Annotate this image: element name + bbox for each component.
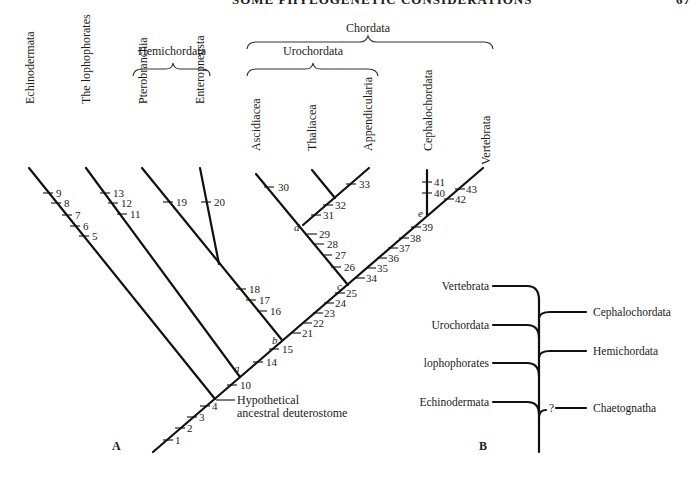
char-26: 26 [344, 261, 356, 273]
taxon-thaliacea: Thaliacea [305, 104, 319, 151]
char-32: 32 [335, 199, 346, 211]
b-taxon-echinodermata: Echinodermata [419, 396, 489, 408]
phylogeny-figure: SOME PHYLOGENETIC CONSIDERATIONS 67 Hemi… [0, 0, 696, 478]
char-21: 21 [302, 327, 313, 339]
branch-thaliacea [312, 170, 335, 198]
branch-pterobranchia [142, 168, 282, 340]
char-30: 30 [278, 181, 290, 193]
char-5: 5 [92, 230, 98, 242]
char-8: 8 [64, 197, 70, 209]
char-3: 3 [199, 411, 205, 423]
branch-appendicularia [303, 168, 369, 225]
panel-letter-a: A [112, 439, 121, 453]
char-20: 20 [214, 196, 226, 208]
char-9: 9 [56, 187, 62, 199]
char-23: 23 [324, 307, 336, 319]
node-label-b: b [272, 334, 278, 346]
taxon-ascidiacea: Ascidiacea [249, 98, 263, 151]
node-label-d: d [294, 221, 300, 233]
branch-b-hemichordata [539, 351, 586, 357]
branch-b-urochordata [493, 325, 539, 338]
group-label-chordata: Chordata [346, 21, 391, 35]
char-34: 34 [366, 272, 378, 284]
char-4: 4 [212, 400, 218, 412]
char-13: 13 [113, 187, 125, 199]
taxon-echinodermata: Echinodermata [23, 31, 37, 104]
char-40: 40 [434, 187, 446, 199]
char-22: 22 [313, 317, 324, 329]
char-25: 25 [346, 287, 358, 299]
char-42: 42 [455, 193, 466, 205]
b-taxon-lophophorates: lophophorates [424, 357, 490, 370]
taxon-appendicularia: Appendicularia [361, 76, 375, 151]
branch-b-lophophorates [493, 363, 539, 376]
b-taxon-vertebrata: Vertebrata [442, 280, 489, 292]
b-taxon-chaetognatha: Chaetognatha [593, 402, 656, 415]
char-27: 27 [335, 249, 347, 261]
branch-b-cephalochordata [539, 312, 586, 318]
panel-a-tree: Hemichordata Urochordata Chordata Echino… [23, 14, 493, 453]
char-1: 1 [175, 434, 181, 446]
b-taxon-urochordata: Urochordata [432, 319, 489, 331]
page-number: 67 [676, 0, 691, 7]
ancestor-label-line2: ancestral deuterostome [237, 406, 347, 420]
ancestor-label-line1: Hypothetical [237, 393, 300, 407]
char-14: 14 [266, 356, 278, 368]
char-39: 39 [422, 221, 434, 233]
taxon-pterobranchia: Pterobranchia [136, 37, 150, 104]
node-label-e: e [418, 207, 423, 219]
char-31: 31 [323, 209, 334, 221]
node-label-c: c [337, 280, 342, 292]
char-16: 16 [270, 305, 282, 317]
uncertain-mark: ? [549, 402, 554, 414]
branch-ascidiacea [256, 174, 348, 285]
char-36: 36 [388, 252, 400, 264]
char-35: 35 [377, 262, 389, 274]
node-label-a: a [234, 362, 240, 374]
brace-urochordata: Urochordata [247, 44, 378, 76]
taxon-vertebrata: Vertebrata [479, 115, 493, 165]
group-label-urochordata: Urochordata [283, 44, 344, 58]
char-11: 11 [130, 208, 141, 220]
panel-b-tree: Vertebrata Urochordata lophophorates Ech… [419, 280, 671, 453]
char-33: 33 [359, 178, 371, 190]
taxon-enteropneusta: Enteropneusta [193, 35, 207, 104]
b-taxon-cephalochordata: Cephalochordata [593, 306, 671, 319]
panel-letter-b: B [479, 439, 487, 453]
char-7: 7 [75, 209, 81, 221]
char-15: 15 [282, 343, 294, 355]
char-37: 37 [399, 242, 411, 254]
char-43: 43 [466, 183, 478, 195]
char-18: 18 [249, 283, 261, 295]
branch-b-vertebrata [493, 286, 539, 300]
char-19: 19 [176, 196, 188, 208]
char-6: 6 [83, 220, 89, 232]
running-header: SOME PHYLOGENETIC CONSIDERATIONS 67 [232, 0, 691, 7]
char-29: 29 [319, 228, 331, 240]
taxon-lophophorates: The lophophorates [79, 14, 93, 104]
char-10: 10 [240, 379, 252, 391]
char-24: 24 [335, 297, 347, 309]
char-17: 17 [259, 294, 271, 306]
running-header-text: SOME PHYLOGENETIC CONSIDERATIONS [232, 0, 532, 7]
taxon-cephalochordata: Cephalochordata [421, 69, 435, 151]
char-41: 41 [434, 176, 445, 188]
branch-b-echinodermata [493, 402, 539, 414]
b-taxon-hemichordata: Hemichordata [593, 345, 658, 357]
char-2: 2 [187, 422, 193, 434]
char-38: 38 [410, 232, 422, 244]
